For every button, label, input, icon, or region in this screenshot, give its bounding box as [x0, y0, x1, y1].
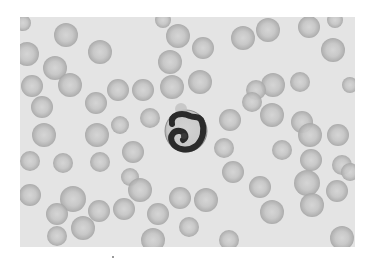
micrograph-svg	[20, 17, 355, 247]
red-blood-cell	[32, 123, 56, 147]
red-blood-cell	[147, 203, 169, 225]
red-blood-cell	[194, 188, 218, 212]
red-blood-cell	[272, 140, 292, 160]
red-blood-cell	[219, 109, 241, 131]
red-blood-cell	[85, 92, 107, 114]
red-blood-cell	[113, 198, 135, 220]
red-blood-cell	[85, 123, 109, 147]
red-blood-cell	[256, 18, 280, 42]
red-blood-cell	[140, 108, 160, 128]
red-blood-cell	[192, 37, 214, 59]
red-blood-cell	[132, 79, 154, 101]
red-blood-cell	[31, 96, 53, 118]
red-blood-cell	[300, 193, 324, 217]
red-blood-cell	[54, 23, 78, 47]
red-blood-cell	[111, 116, 129, 134]
blood-smear-micrograph	[20, 17, 355, 247]
red-blood-cell	[20, 151, 40, 171]
red-blood-cell	[298, 123, 322, 147]
red-blood-cell	[160, 75, 184, 99]
red-blood-cell	[88, 200, 110, 222]
red-blood-cell	[47, 226, 67, 246]
red-blood-cell	[158, 50, 182, 74]
red-blood-cell	[242, 92, 262, 112]
red-blood-cell	[300, 149, 322, 171]
red-blood-cell	[249, 176, 271, 198]
red-blood-cell	[46, 203, 68, 225]
red-blood-cell	[88, 40, 112, 64]
red-blood-cell	[290, 72, 310, 92]
red-blood-cell	[179, 217, 199, 237]
red-blood-cell	[260, 200, 284, 224]
red-blood-cell	[321, 38, 345, 62]
red-blood-cell	[222, 161, 244, 183]
red-blood-cell	[128, 178, 152, 202]
red-blood-cell	[326, 180, 348, 202]
red-blood-cell	[20, 184, 41, 206]
red-blood-cell	[90, 152, 110, 172]
red-blood-cell	[214, 138, 234, 158]
red-blood-cell	[53, 153, 73, 173]
red-blood-cell	[107, 79, 129, 101]
red-blood-cell	[327, 124, 349, 146]
red-blood-cell	[260, 103, 284, 127]
red-blood-cell	[71, 216, 95, 240]
red-blood-cell	[122, 141, 144, 163]
red-blood-cell	[298, 17, 320, 38]
image-caption: Peripheral blood smear with a segmented …	[0, 0, 1, 1]
figure-canvas: Peripheral blood smear with a segmented …	[0, 0, 374, 260]
stray-mark	[112, 256, 114, 258]
red-blood-cell	[58, 73, 82, 97]
red-blood-cell	[169, 187, 191, 209]
red-blood-cell	[21, 75, 43, 97]
red-blood-cell	[166, 24, 190, 48]
red-blood-cell	[294, 170, 320, 196]
red-blood-cell	[231, 26, 255, 50]
red-blood-cell	[188, 70, 212, 94]
